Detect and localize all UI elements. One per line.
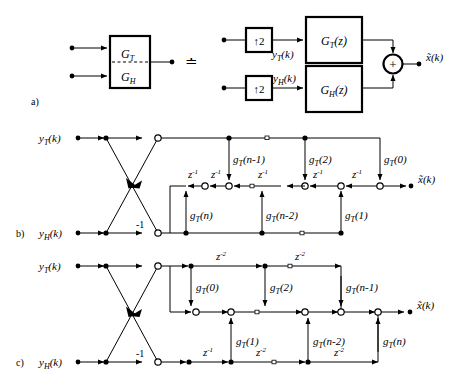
coeff-label-lower-b-3: gT(1) bbox=[345, 209, 368, 224]
delay-label-b-4: z-1 bbox=[312, 168, 323, 180]
coeff-label-upper-b-3: gT(0) bbox=[384, 153, 407, 168]
gain-label-minus1-b: -1 bbox=[136, 219, 144, 230]
input-label-yh-b: yH(k) bbox=[38, 227, 62, 242]
panel-c-label: c) bbox=[16, 357, 24, 369]
delay-label-top-c-2: z-2 bbox=[294, 250, 306, 262]
coeff-label-lower-b-1: gT(n) bbox=[190, 209, 213, 224]
filter-gt-label: GT(z) bbox=[321, 34, 347, 50]
signal-flow-diagram: a) GT GH ≐ ↑2 yT(k) GT(z) ↑2 yH(k) bbox=[0, 0, 451, 389]
output-node-final-a bbox=[417, 62, 422, 67]
coeff-label-lower-b-2: gT(n-2) bbox=[266, 209, 298, 224]
continuation-break-top-b bbox=[265, 136, 269, 140]
adder-plus-symbol: + bbox=[389, 57, 396, 72]
sum-node-mid-b-1 bbox=[202, 183, 208, 189]
filter-gh-label: GH(z) bbox=[320, 83, 347, 99]
sum-node-mid-c-2 bbox=[228, 309, 234, 315]
sum-node-bottom-c bbox=[155, 359, 161, 365]
panel-a: a) GT GH ≐ ↑2 yT(k) GT(z) ↑2 yH(k) bbox=[31, 17, 443, 112]
coeff-label-upper-c-3: gT(n-1) bbox=[346, 281, 378, 296]
input-label-yt-b: yT(k) bbox=[38, 132, 61, 147]
continuation-break-top-c bbox=[288, 264, 292, 268]
delay-label-top-c-1: z-2 bbox=[215, 250, 227, 262]
sum-node-mid-b-2 bbox=[226, 183, 232, 189]
delay-label-bottom-c-3: z-2 bbox=[333, 346, 345, 358]
input-label-yh-c: yH(k) bbox=[38, 356, 62, 371]
delay-label-bottom-c-2: z-2 bbox=[255, 346, 267, 358]
upsampler-bottom-label: ↑2 bbox=[254, 83, 265, 95]
signal-label-yh-a: yH(k) bbox=[272, 72, 296, 87]
panel-b-label: b) bbox=[16, 228, 24, 240]
continuation-break-mid-c bbox=[255, 310, 259, 314]
sum-node-top-c bbox=[155, 263, 161, 269]
sum-node-mid-c-4 bbox=[338, 309, 344, 315]
sum-node-top-b bbox=[155, 135, 161, 141]
output-node-c bbox=[408, 310, 413, 315]
delay-label-bottom-c-1: z-1 bbox=[202, 346, 213, 358]
gain-label-minus1-c: -1 bbox=[136, 348, 144, 359]
signal-label-yt-a: yT(k) bbox=[271, 48, 294, 63]
continuation-break-mid-b bbox=[250, 184, 254, 188]
coeff-label-lower-c-3: gT(n) bbox=[383, 335, 406, 350]
output-label-b: x̃(k) bbox=[417, 173, 435, 186]
equivalence-symbol: ≐ bbox=[185, 54, 198, 70]
panel-c: c) yT(k) yH(k) -1 z-2 z-2 bbox=[16, 250, 434, 371]
delay-label-b-3: z-1 bbox=[257, 168, 268, 180]
panel-b: b) yT(k) yH(k) -1 bbox=[16, 132, 435, 242]
output-label-c: x̃(k) bbox=[416, 299, 434, 312]
sum-node-bottom-b bbox=[155, 230, 161, 236]
output-node-a bbox=[170, 60, 175, 65]
sum-node-mid-b-4 bbox=[338, 183, 344, 189]
coeff-label-upper-b-1: gT(n-1) bbox=[233, 153, 265, 168]
delay-label-b-5: z-1 bbox=[351, 168, 362, 180]
input-label-yt-c: yT(k) bbox=[38, 260, 61, 275]
figure-canvas: a) GT GH ≐ ↑2 yT(k) GT(z) ↑2 yH(k) bbox=[0, 0, 451, 389]
upsampler-top-label: ↑2 bbox=[254, 35, 265, 47]
sum-node-mid-b-5 bbox=[377, 183, 383, 189]
output-node-b bbox=[409, 184, 414, 189]
output-label-a: x̃(k) bbox=[425, 51, 443, 64]
sum-node-mid-c-5 bbox=[375, 309, 381, 315]
continuation-break-bottom-b bbox=[300, 231, 304, 235]
sum-node-mid-c-3 bbox=[302, 309, 308, 315]
coeff-label-upper-c-1: gT(0) bbox=[196, 281, 219, 296]
panel-a-label: a) bbox=[31, 96, 39, 108]
delay-label-b-2: z-1 bbox=[210, 168, 221, 180]
sum-node-mid-c-1 bbox=[193, 309, 199, 315]
continuation-break-bottom-c bbox=[272, 360, 276, 364]
coeff-label-upper-c-2: gT(2) bbox=[270, 281, 293, 296]
delay-label-b-1: z-1 bbox=[187, 168, 198, 180]
coeff-label-upper-b-2: gT(2) bbox=[309, 153, 332, 168]
